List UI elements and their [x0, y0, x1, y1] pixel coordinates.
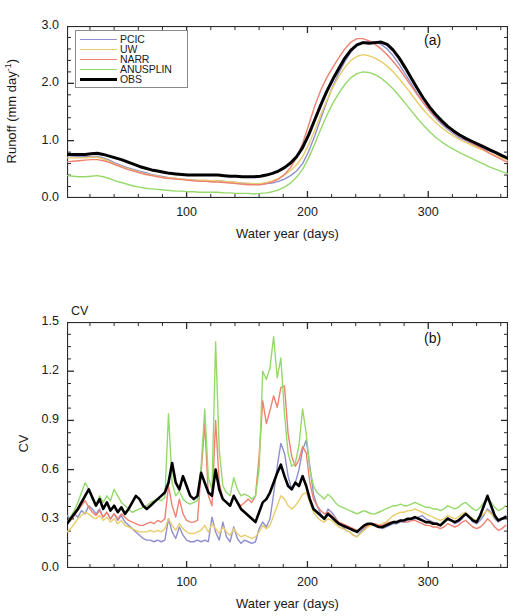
y-tick-label: 1.5 — [15, 314, 59, 328]
panel-label-a: (a) — [424, 32, 441, 48]
panel-b-cv — [67, 322, 508, 568]
x-tick-label: 200 — [277, 575, 337, 589]
figure-root: 0.01.02.03.0100200300(a)Water year (days… — [0, 0, 511, 616]
y-axis-title-runoff: Runoff (mm day-1) — [3, 1, 19, 221]
legend-swatch-uw-icon — [80, 49, 117, 50]
panel-label-b: (b) — [424, 330, 441, 346]
series-line-anusplin — [67, 72, 508, 194]
legend-swatch-pcic-icon — [80, 39, 117, 40]
series-line-anusplin — [67, 337, 506, 522]
legend-swatch-narr-icon — [80, 59, 117, 60]
legend-swatch-obs-icon — [80, 78, 117, 81]
plot-area-b — [67, 322, 508, 568]
y-axis-title: CV — [16, 334, 31, 554]
panel-corner-title: CV — [71, 304, 88, 318]
y-tick-label: 1.0 — [15, 133, 59, 147]
x-axis-title: Water year (days) — [208, 226, 368, 241]
x-tick-label: 100 — [157, 205, 217, 219]
y-tick-label: 0.0 — [15, 560, 59, 574]
x-tick-label: 200 — [277, 205, 337, 219]
legend: PCICUWNARRANUSPLINOBS — [75, 30, 188, 88]
y-tick-label: 0.0 — [15, 190, 59, 204]
x-tick-label: 100 — [157, 575, 217, 589]
legend-item-obs[interactable]: OBS — [80, 74, 182, 84]
x-axis-title: Water year (days) — [208, 596, 368, 611]
legend-swatch-anusplin-icon — [80, 69, 117, 70]
x-tick-label: 300 — [398, 205, 458, 219]
series-line-narr — [67, 386, 506, 530]
x-tick-label: 300 — [398, 575, 458, 589]
y-tick-label: 2.0 — [15, 75, 59, 89]
legend-label: OBS — [120, 74, 142, 84]
y-tick-label: 3.0 — [15, 18, 59, 32]
